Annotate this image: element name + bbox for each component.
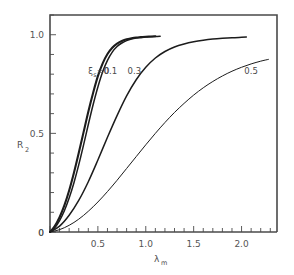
x-tick-label: 1.0 (139, 239, 154, 249)
x-axis-title: λ m (154, 254, 167, 267)
x-axis-title-subscript: m (161, 259, 167, 267)
y-tick-label: 0.5 (30, 129, 44, 139)
x-tick-label: 0.5 (91, 239, 105, 249)
y-axis-title-text: R (17, 140, 23, 150)
curve-label-value: 0.3 (128, 66, 142, 76)
data-curves (50, 36, 268, 232)
curve-label-value: 0.1 (104, 66, 118, 76)
y-axis-ticks (50, 15, 56, 232)
y-axis-title-subscript: 2 (25, 146, 29, 154)
x-tick-label: 2.0 (234, 239, 249, 249)
x-axis-title-text: λ (154, 254, 160, 264)
y-axis-title: R 2 (17, 140, 29, 154)
x-tick-label: 0 (38, 228, 44, 238)
y-axis-tick-labels: 00.51.0 (30, 30, 45, 237)
curve-label-value: 0.5 (244, 66, 258, 76)
curve-labels: ξs=00.10.30.5 (88, 66, 258, 79)
x-tick-label: 1.5 (187, 239, 201, 249)
curve-series-2 (50, 37, 246, 232)
chart-canvas: 00.51.0 00.51.01.52.0 ξs=00.10.30.5 R 2 … (0, 0, 294, 275)
x-axis-ticks (50, 226, 270, 232)
chart-figure: 00.51.0 00.51.01.52.0 ξs=00.10.30.5 R 2 … (0, 0, 294, 275)
y-tick-label: 1.0 (30, 30, 45, 40)
x-axis-tick-labels: 00.51.01.52.0 (38, 228, 249, 249)
